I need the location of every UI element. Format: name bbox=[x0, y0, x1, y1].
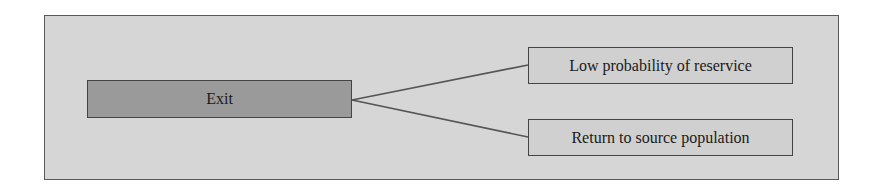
return-to-source-population-node: Return to source population bbox=[528, 119, 793, 156]
low-probability-of-reservice-label: Low probability of reservice bbox=[569, 57, 752, 75]
exit-node: Exit bbox=[87, 80, 352, 118]
low-probability-of-reservice-node: Low probability of reservice bbox=[528, 47, 793, 84]
exit-node-label: Exit bbox=[206, 90, 233, 108]
return-to-source-population-label: Return to source population bbox=[571, 129, 749, 147]
